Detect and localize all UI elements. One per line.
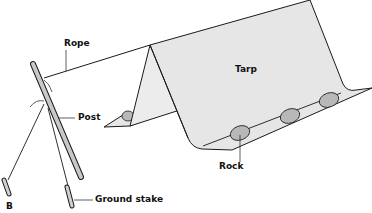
- ground-stake-right: [67, 187, 72, 206]
- rope-label: Rope: [64, 38, 90, 48]
- rock-label: Rock: [219, 161, 243, 171]
- tarp-label: Tarp: [235, 64, 257, 74]
- rope: [44, 45, 150, 78]
- ground-stake-left: [4, 180, 9, 194]
- post-label: Post: [78, 112, 100, 122]
- tarp-shelter-illustration: [0, 0, 372, 213]
- figure-letter: B: [6, 201, 13, 211]
- ground-stake-label: Ground stake: [95, 194, 163, 204]
- post: [33, 64, 81, 177]
